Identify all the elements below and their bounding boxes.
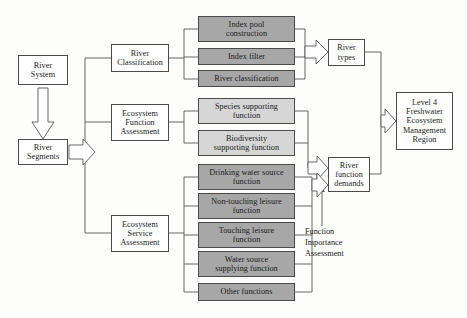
node-efa-line-1: Ecosystem: [120, 109, 159, 118]
node-non-touching-leisure-function[interactable]: Non-touching leisure function: [198, 193, 295, 219]
arrow-to-river-function-demands-lower: [312, 173, 328, 197]
node-river-system-line-2: System: [31, 70, 55, 79]
arrow-to-level4-region: [381, 109, 396, 133]
node-drinking-water-source-function[interactable]: Drinking water source function: [198, 164, 295, 190]
node-river-classification-line-1: River: [117, 49, 163, 58]
node-river-segments[interactable]: River Segments: [18, 139, 68, 165]
node-non-touching-line-1: Non-touching leisure: [211, 197, 281, 206]
node-river-types[interactable]: River types: [328, 39, 365, 66]
node-efa-line-2: Function: [120, 118, 159, 127]
node-river-system[interactable]: River System: [18, 55, 68, 85]
node-other-functions-label: Other functions: [221, 287, 273, 296]
node-touching-line-1: Touching leisure: [219, 226, 274, 235]
node-river-classification-step[interactable]: River classification: [198, 70, 295, 87]
arrow-river-system-to-segments: [32, 88, 54, 139]
node-river-segments-line-1: River: [27, 143, 59, 152]
node-other-functions[interactable]: Other functions: [198, 283, 295, 301]
node-index-pool-line-2: construction: [226, 29, 267, 38]
node-result-line-1: Level 4: [403, 98, 446, 107]
node-esa-line-1: Ecosystem: [120, 220, 159, 229]
node-ecosystem-function-assessment[interactable]: Ecosystem Function Assessment: [111, 104, 169, 141]
fia-arrowhead: [319, 186, 325, 192]
node-index-filter[interactable]: Index filter: [198, 48, 295, 65]
node-species-line-1: Species supporting: [215, 102, 278, 111]
node-river-classification[interactable]: River Classification: [111, 44, 169, 72]
node-result-line-2: Freshwater: [403, 107, 446, 116]
node-water-source-line-1: Water source: [215, 255, 278, 264]
node-water-source-line-2: supplying function: [215, 264, 278, 273]
label-fia-line-1: Function: [305, 227, 365, 238]
node-result-line-4: Management: [403, 126, 446, 135]
node-non-touching-line-2: function: [211, 206, 281, 215]
node-esa-line-3: Assessment: [120, 238, 159, 247]
node-result-line-3: Ecosystem: [403, 116, 446, 125]
node-river-segments-line-2: Segments: [27, 152, 59, 161]
arrow-to-river-function-demands-upper: [308, 156, 328, 180]
node-species-supporting-function[interactable]: Species supporting function: [198, 98, 295, 124]
node-result-line-5: Region: [403, 135, 446, 144]
node-touching-line-2: function: [219, 235, 274, 244]
node-drinking-line-1: Drinking water source: [209, 168, 283, 177]
node-river-types-line-1: River: [337, 43, 355, 52]
node-esa-line-2: Service: [120, 229, 159, 238]
node-biodiversity-supporting-function[interactable]: Biodiversity supporting function: [198, 130, 295, 156]
node-level-4-freshwater-ecosystem-management-region[interactable]: Level 4 Freshwater Ecosystem Management …: [396, 92, 453, 150]
node-touching-leisure-function[interactable]: Touching leisure function: [198, 222, 295, 248]
node-species-line-2: function: [215, 111, 278, 120]
node-drinking-line-2: function: [209, 177, 283, 186]
node-rfd-line-1: River: [334, 161, 363, 170]
node-efa-line-3: Assessment: [120, 127, 159, 136]
node-river-function-demands[interactable]: River function demands: [328, 157, 370, 192]
node-river-classification-step-label: River classification: [214, 74, 278, 83]
label-function-importance-assessment: Function Importance Assessment: [305, 227, 365, 259]
arrow-river-segments-to-trunk: [69, 139, 95, 165]
node-water-source-supplying-function[interactable]: Water source supplying function: [198, 251, 295, 277]
node-rfd-line-2: function: [334, 170, 363, 179]
node-rfd-line-3: demands: [334, 179, 363, 188]
label-fia-line-2: Importance: [305, 238, 365, 249]
node-river-types-line-2: types: [337, 53, 355, 62]
arrow-to-river-types: [305, 40, 328, 64]
node-biodiversity-line-2: supporting function: [214, 143, 279, 152]
node-index-filter-label: Index filter: [228, 52, 265, 61]
node-index-pool-construction[interactable]: Index pool construction: [198, 16, 295, 42]
node-index-pool-line-1: Index pool: [226, 20, 267, 29]
flowchart-canvas: River System River Segments River Classi…: [0, 0, 467, 318]
node-biodiversity-line-1: Biodiversity: [214, 134, 279, 143]
node-river-classification-line-2: Classification: [117, 58, 163, 67]
label-fia-line-3: Assessment: [305, 249, 365, 260]
node-ecosystem-service-assessment[interactable]: Ecosystem Service Assessment: [111, 215, 169, 252]
node-river-system-line-1: River: [31, 61, 55, 70]
